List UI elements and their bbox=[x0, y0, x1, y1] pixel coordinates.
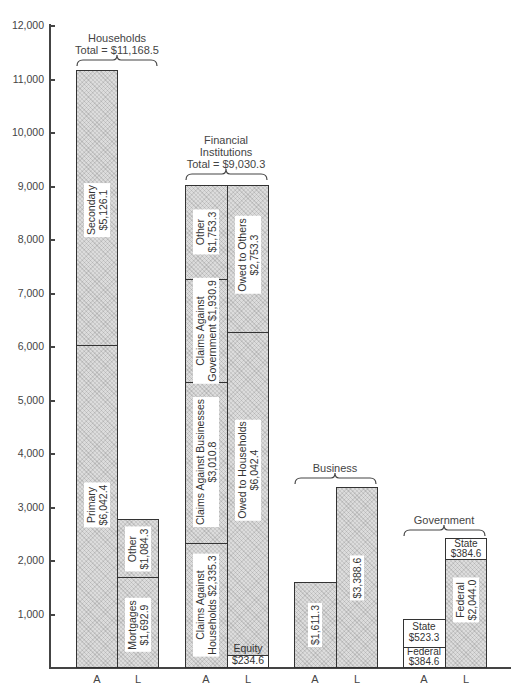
segment-name: Claims Against Businesses bbox=[194, 399, 206, 525]
households-mortgages-label: Mortgages $1,692.9 bbox=[125, 598, 151, 652]
fi-claims-households-label: Claims Against Households $2,335.3 bbox=[193, 553, 219, 656]
x-label-gov-liabilities: L bbox=[463, 673, 469, 685]
balance-sheet-chart: 1,000 2,000 3,000 4,000 5,000 6,000 7,00… bbox=[0, 0, 529, 696]
segment-value: $3,010.8 bbox=[206, 399, 218, 525]
segment-name: Equity bbox=[232, 642, 264, 654]
segment-value: $1,692.9 bbox=[138, 600, 150, 650]
households-primary-label: Primary $6,042.4 bbox=[84, 483, 110, 528]
segment-name: Primary bbox=[85, 485, 97, 526]
segment-name: State bbox=[409, 621, 440, 632]
gov-liabilities-federal-label: Federal $2,044.0 bbox=[453, 578, 479, 623]
segment-name: Claims Against bbox=[194, 555, 206, 654]
segment-name: Owed to Others bbox=[236, 218, 248, 292]
segment-name: Mortgages bbox=[126, 600, 138, 650]
segment-value: $1,753.3 bbox=[206, 212, 218, 253]
segment-value: $2,044.0 bbox=[466, 580, 478, 621]
fi-claims-government-label: Claims Against Government $1,930.9 bbox=[193, 278, 219, 384]
segment-value: $234.6 bbox=[232, 654, 264, 666]
segment-value: Government $1,930.9 bbox=[206, 280, 218, 382]
segment-name: Other bbox=[194, 212, 206, 253]
x-label-fi-liabilities: L bbox=[245, 673, 251, 685]
households-secondary-label: Secondary $5,126.1 bbox=[84, 183, 110, 237]
fi-claims-businesses-label: Claims Against Businesses $3,010.8 bbox=[193, 397, 219, 527]
financial-institutions-title-line1: Financial bbox=[204, 134, 248, 146]
fi-equity-label: Equity $234.6 bbox=[230, 641, 266, 667]
segment-value: $384.6 bbox=[407, 657, 441, 667]
gov-assets-state-label: State $523.3 bbox=[407, 620, 442, 644]
segment-value: $1,084.3 bbox=[138, 529, 150, 570]
households-other-label: Other $1,084.3 bbox=[125, 527, 151, 572]
fi-owed-households-label: Owed to Households $6,042.4 bbox=[235, 419, 261, 520]
segment-name: Claims Against bbox=[194, 280, 206, 382]
segment-value: Households $2,335.3 bbox=[206, 555, 218, 654]
business-title: Business bbox=[313, 462, 358, 474]
x-label-households-liabilities: L bbox=[135, 673, 141, 685]
x-label-households-assets: A bbox=[93, 673, 100, 685]
financial-institutions-total: Total = $9,030.3 bbox=[187, 158, 266, 170]
business-assets-label: $1,611.3 bbox=[308, 603, 322, 647]
segment-name: Federal bbox=[454, 580, 466, 621]
segment-value: $5,126.1 bbox=[97, 185, 109, 235]
segment-value: $2,753.3 bbox=[248, 218, 260, 292]
segment-name: Secondary bbox=[85, 185, 97, 235]
segment-value: $384.6 bbox=[451, 549, 482, 559]
segment-value: $6,042.4 bbox=[248, 421, 260, 518]
x-label-business-liabilities: L bbox=[354, 673, 360, 685]
households-total: Total = $11,168.5 bbox=[75, 44, 159, 56]
segment-value: $6,042.4 bbox=[97, 485, 109, 526]
gov-assets-federal-label: Federal $384.6 bbox=[407, 647, 441, 667]
business-liabilities-label: $3,388.6 bbox=[350, 556, 364, 601]
segment-value: $523.3 bbox=[409, 632, 440, 643]
gov-liabilities-state-label: State $384.6 bbox=[451, 539, 482, 559]
households-title: Households bbox=[88, 32, 146, 44]
financial-institutions-title-line2: Institutions bbox=[200, 146, 253, 158]
x-label-gov-assets: A bbox=[420, 673, 427, 685]
fi-other-label: Other $1,753.3 bbox=[193, 210, 219, 255]
segment-name: Owed to Households bbox=[236, 421, 248, 518]
x-label-fi-assets: A bbox=[202, 673, 209, 685]
x-label-business-assets: A bbox=[311, 673, 318, 685]
fi-owed-others-label: Owed to Others $2,753.3 bbox=[235, 216, 261, 294]
government-title: Government bbox=[414, 514, 475, 526]
segment-name: Other bbox=[126, 529, 138, 570]
